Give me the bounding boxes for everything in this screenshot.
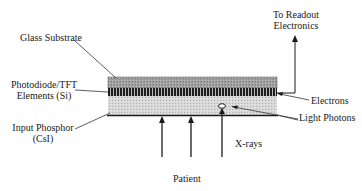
photodiode-tft-layer — [108, 88, 277, 96]
glass-substrate-layer — [108, 77, 277, 88]
readout-label-line2: Electronics — [264, 20, 328, 31]
xrays-label: X-rays — [235, 138, 262, 149]
xray-arrowhead-1-icon — [159, 116, 165, 123]
photodiode-leader-line — [75, 90, 108, 92]
phosphor-label-line1: Input Phosphor — [10, 122, 76, 133]
xray-arrowhead-2-icon — [188, 116, 194, 123]
electrons-label: Electrons — [311, 95, 349, 106]
phosphor-leader-line — [75, 113, 110, 129]
electrons-pointer-line — [280, 94, 309, 100]
phosphor-label-line2: (CsI) — [10, 133, 76, 144]
readout-label-line1: To Readout — [264, 9, 328, 20]
photodiode-label-line1: Photodiode/TFT — [10, 79, 78, 90]
photodiode-label-line2: Elements (Si) — [10, 90, 78, 101]
photon-event-icon — [219, 104, 226, 109]
glass-leader-line — [74, 40, 116, 78]
glass-substrate-label: Glass Substrate — [20, 32, 82, 43]
phosphor-label: Input Phosphor (CsI) — [10, 122, 76, 144]
photodiode-label: Photodiode/TFT Elements (Si) — [10, 79, 78, 101]
readout-line — [277, 40, 295, 93]
readout-label: To Readout Electronics — [264, 9, 328, 31]
phosphor-layer — [108, 96, 277, 115]
light-photons-underline — [277, 115, 298, 120]
patient-label: Patient — [173, 173, 201, 184]
light-photons-label: Light Photons — [299, 112, 355, 123]
readout-arrow-icon — [292, 35, 298, 42]
